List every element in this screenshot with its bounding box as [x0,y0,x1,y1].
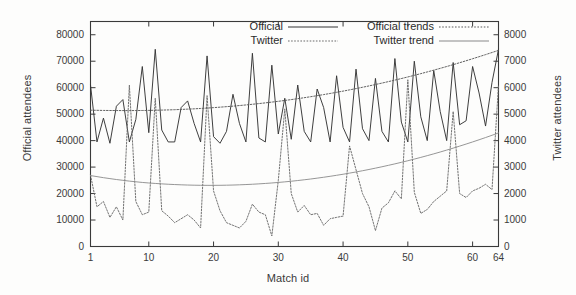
y-axis-left-tick-label: 70000 [26,55,84,66]
y-axis-left-tick-label: 80000 [26,29,84,40]
y-axis-right-tick-label: 0 [504,241,548,252]
y-axis-left-tick-label: 10000 [26,214,84,225]
x-axis-title: Match id [0,272,576,284]
y-axis-right-tick-label: 7000 [504,55,548,66]
y-axis-left-tick-label: 0 [26,241,84,252]
legend-label-twitter-trend: Twitter trend [274,34,434,46]
legend-label-twitter: Twitter [123,34,283,46]
y-axis-right-tick-label: 8000 [504,29,548,40]
y-axis-right-tick-label: 4000 [504,135,548,146]
plot-frame [91,22,499,247]
x-axis-tick-label: 20 [196,252,232,263]
series-line-official-trends [91,50,499,110]
y-axis-left-tick-label: 30000 [26,161,84,172]
legend-label-official: Official [123,20,283,32]
y-axis-left-tick-label: 50000 [26,108,84,119]
legend-label-official-trends: Official trends [274,20,434,32]
y-axis-left-tick-label: 40000 [26,135,84,146]
attendance-line-chart: Official attendees Twitter attendees Mat… [0,0,576,295]
y-axis-left-tick-label: 20000 [26,188,84,199]
y-axis-right-tick-label: 2000 [504,188,548,199]
y-axis-right-tick-label: 6000 [504,82,548,93]
y-axis-right-tick-label: 3000 [504,161,548,172]
series-line-twitter-trend [91,133,499,185]
x-axis-tick-label: 50 [390,252,426,263]
x-axis-tick-label: 64 [481,252,517,263]
y-axis-right-tick-label: 1000 [504,214,548,225]
series-line-twitter [91,80,499,236]
x-axis-tick-label: 30 [260,252,296,263]
y-axis-left-tick-label: 60000 [26,82,84,93]
x-axis-tick-label: 10 [131,252,167,263]
y-axis-right-title: Twitter attendees [551,48,563,188]
y-axis-right-tick-label: 5000 [504,108,548,119]
x-axis-tick-label: 1 [73,252,109,263]
series-line-official [91,49,499,143]
x-axis-tick-label: 40 [325,252,361,263]
